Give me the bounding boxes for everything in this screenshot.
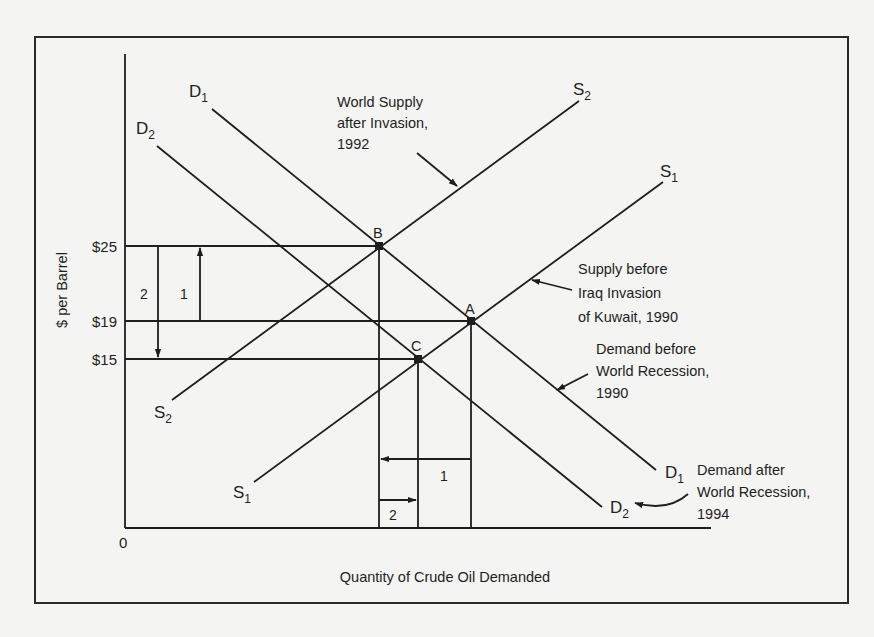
y-axis-title: $ per Barrel xyxy=(54,252,70,328)
equilibrium-point-b xyxy=(375,242,383,250)
equilibrium-point-c xyxy=(414,355,422,363)
curve-label-s1-top: S1 xyxy=(660,162,678,185)
point-label-b: B xyxy=(373,225,383,241)
curve-label-s1-bottom: S1 xyxy=(233,483,251,506)
curve-label-s2-bottom: S2 xyxy=(154,403,172,426)
y-tick-19: $19 xyxy=(92,313,117,330)
point-label-c: C xyxy=(411,338,421,354)
demand-after-pointer-arrow xyxy=(635,494,688,506)
demand-before-pointer-arrow xyxy=(557,374,588,390)
annotation-demand-after: Demand after World Recession, 1994 xyxy=(697,462,814,522)
supply-curve-s2 xyxy=(172,101,579,400)
curve-label-d2-bottom: D2 xyxy=(610,498,629,521)
supply-before-pointer-arrow xyxy=(532,280,572,290)
y-tick-25: $25 xyxy=(92,238,117,255)
quantity-step-label-1: 1 xyxy=(440,468,448,484)
curve-label-s2-top: S2 xyxy=(573,80,591,103)
price-step-label-2: 2 xyxy=(140,286,148,302)
x-axis-title: Quantity of Crude Oil Demanded xyxy=(340,569,550,585)
price-step-label-1: 1 xyxy=(180,286,188,302)
annotation-world-supply: World Supply after Invasion, 1992 xyxy=(337,94,432,152)
curve-label-d1-top: D1 xyxy=(189,82,208,105)
curve-label-d1-bottom: D1 xyxy=(665,463,684,486)
supply-demand-diagram: B A C $25 $19 $15 $ per Barrel Quantity … xyxy=(0,0,874,637)
quantity-step-label-2: 2 xyxy=(389,507,397,523)
supply-curve-s1 xyxy=(254,182,663,482)
annotation-supply-before: Supply before Iraq Invasion of Kuwait, 1… xyxy=(578,261,678,325)
origin-label: 0 xyxy=(119,534,127,551)
point-label-a: A xyxy=(465,301,475,317)
curve-label-d2-top: D2 xyxy=(136,119,155,142)
world-supply-pointer-arrow xyxy=(417,153,457,186)
annotation-demand-before: Demand before World Recession, 1990 xyxy=(596,341,713,401)
equilibrium-point-a xyxy=(467,317,475,325)
y-tick-15: $15 xyxy=(92,351,117,368)
